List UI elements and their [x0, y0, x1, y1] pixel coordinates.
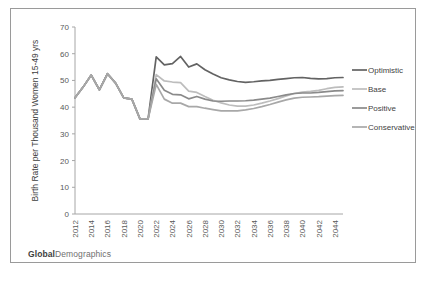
x-tick-2030: 2030: [217, 219, 226, 237]
y-axis-title-text: Birth Rate per Thousand Women 15-49 yrs: [30, 40, 40, 202]
x-tick-2018: 2018: [120, 219, 129, 237]
birth-rate-projection-chart: Birth Rate per Thousand Women 15-49 yrs …: [0, 0, 448, 287]
y-tick-70: 70: [60, 23, 69, 32]
x-tick-2042: 2042: [315, 219, 324, 237]
legend-label-positive: Positive: [368, 104, 397, 113]
brand-bold: Global: [28, 249, 55, 259]
x-tick-2036: 2036: [266, 219, 275, 237]
x-tick-2020: 2020: [136, 219, 145, 237]
x-tick-2026: 2026: [185, 219, 194, 237]
x-tick-2040: 2040: [298, 219, 307, 237]
axis-lines: [75, 27, 343, 214]
y-tick-20: 20: [60, 157, 69, 166]
legend-label-base: Base: [368, 85, 387, 94]
y-axis-tick-labels: 010203040506070: [60, 23, 75, 219]
y-tick-0: 0: [65, 210, 70, 219]
series-line-base: [75, 74, 343, 119]
series-line-positive: [75, 74, 343, 119]
y-tick-30: 30: [60, 130, 69, 139]
x-tick-2014: 2014: [87, 219, 96, 237]
y-tick-40: 40: [60, 103, 69, 112]
x-tick-2028: 2028: [201, 219, 210, 237]
x-tick-2044: 2044: [331, 219, 340, 237]
y-tick-60: 60: [60, 50, 69, 59]
x-tick-2032: 2032: [233, 219, 242, 237]
y-axis-title: Birth Rate per Thousand Women 15-49 yrs: [30, 40, 40, 202]
brand-logo: GlobalDemographics: [28, 249, 111, 259]
x-tick-2022: 2022: [152, 219, 161, 237]
series-lines: [75, 56, 343, 119]
x-tick-2034: 2034: [250, 219, 259, 237]
y-tick-10: 10: [60, 183, 69, 192]
x-tick-2016: 2016: [103, 219, 112, 237]
chart-legend: OptimisticBasePositiveConservative: [352, 66, 415, 132]
x-tick-2038: 2038: [282, 219, 291, 237]
legend-label-optimistic: Optimistic: [368, 66, 403, 75]
x-axis-tick-labels: 2012201420162018202020222024202620282030…: [71, 219, 340, 237]
x-tick-2024: 2024: [168, 219, 177, 237]
y-tick-50: 50: [60, 76, 69, 85]
series-line-conservative: [75, 74, 343, 119]
legend-label-conservative: Conservative: [368, 123, 415, 132]
brand-rest: Demographics: [55, 249, 111, 259]
x-tick-2012: 2012: [71, 219, 80, 237]
